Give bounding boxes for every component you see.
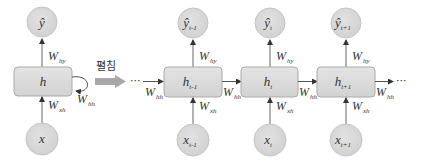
step-t: ŷt Why ht Wxh xt [241,8,298,156]
unfold-arrow: 펼침 [95,60,126,88]
svg-text:x: x [38,131,45,146]
rnn-diagram: ŷ Why h Whh Wxh x 펼침 ··· Whh ŷt-1 W [0,0,424,168]
step-t-minus-1: ŷt-1 Why ht-1 Wxh xt-1 [164,8,222,156]
unfold-arrow-icon [95,75,126,88]
w-hy-label: Why [48,49,67,65]
hidden-box [164,67,222,97]
trailing-ellipsis: ··· [396,74,407,87]
w-hh-out-label: Whh [376,85,395,101]
input-node [177,124,209,156]
folded-rnn: ŷ Why h Whh Wxh x [14,7,96,155]
w-hh-in-label-0: Whh [145,85,164,101]
w-xh-label: Wxh [352,99,370,115]
w-hh-label: Whh [77,92,96,108]
w-hh-in-label-1: Whh [223,85,242,101]
self-loop-arrow [72,77,88,92]
svg-text:ŷ: ŷ [37,15,45,30]
input-node [254,124,286,156]
svg-text:h: h [40,74,47,89]
w-hy-label: Why [276,49,295,65]
w-hy-label: Why [352,49,371,65]
hidden-box [317,67,375,97]
input-node: x [26,123,58,155]
unfold-label: 펼침 [96,60,116,73]
w-xh-label: Wxh [199,99,217,115]
w-xh-label: Wxh [48,98,66,114]
w-hh-in-label-2: Whh [299,85,318,101]
leading-ellipsis: ··· [130,74,141,87]
step-t-plus-1: ŷt+1 Why ht+1 Wxh xt+1 [317,8,375,156]
w-hy-label: Why [199,49,218,65]
w-xh-label: Wxh [276,99,294,115]
output-node [255,8,285,38]
output-node: ŷ [27,7,57,37]
hidden-box: h [14,67,72,96]
